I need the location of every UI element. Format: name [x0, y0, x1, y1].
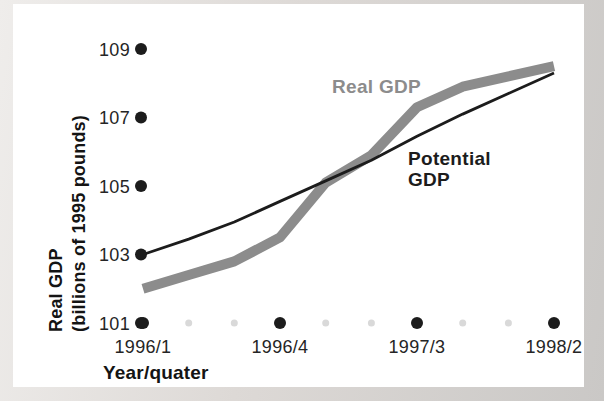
x-tick-dot-major — [411, 317, 423, 329]
series-label-real-gdp: Real GDP — [332, 76, 421, 97]
x-tick-label: 1996/4 — [252, 337, 309, 357]
x-tick-label: 1998/2 — [526, 337, 583, 357]
y-tick-label: 101 — [99, 314, 130, 334]
y-tick-label: 105 — [99, 177, 130, 197]
y-axis-title-line2: (billions of 1995 pounds) — [68, 115, 91, 332]
x-tick-dot-minor — [459, 320, 466, 327]
x-tick-dot-minor — [368, 320, 375, 327]
y-axis-title-line1: Real GDP — [45, 115, 68, 332]
y-tick-dot — [135, 43, 147, 55]
x-tick-label: 1997/3 — [389, 337, 446, 357]
x-axis-title: Year/quater — [103, 362, 209, 384]
y-tick-label: 109 — [99, 40, 130, 60]
x-tick-label: 1996/1 — [115, 337, 172, 357]
series-label-potential-gdp: Potential GDP — [408, 148, 491, 190]
x-tick-dot-major — [548, 317, 560, 329]
x-tick-dot-minor — [185, 320, 192, 327]
y-tick-label: 103 — [99, 245, 130, 265]
x-tick-dot-minor — [505, 320, 512, 327]
x-tick-dot-minor — [322, 320, 329, 327]
scanned-figure-background: 1011031051071091996/11996/41997/31998/2 … — [0, 0, 604, 401]
y-axis-title: Real GDP (billions of 1995 pounds) — [45, 115, 91, 332]
y-tick-label: 107 — [99, 108, 130, 128]
y-tick-dot — [135, 180, 147, 192]
x-tick-dot-minor — [231, 320, 238, 327]
x-tick-dot-major — [274, 317, 286, 329]
y-tick-dot — [135, 249, 147, 261]
y-tick-dot — [135, 112, 147, 124]
y-tick-dot — [135, 317, 147, 329]
